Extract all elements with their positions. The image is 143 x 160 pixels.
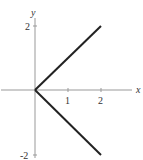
chart: x y 1 2 2 -2	[0, 0, 143, 160]
x-axis	[1, 88, 132, 92]
y-tick-label-top: 2	[25, 21, 30, 32]
upper-branch-line	[35, 26, 101, 90]
y-tick-label-bottom: -2	[20, 150, 28, 160]
x-tick-label-1: 1	[65, 95, 70, 106]
x-tick-label-2: 2	[98, 95, 103, 106]
y-axis-label: y	[30, 7, 36, 18]
x-axis-label: x	[135, 84, 141, 95]
